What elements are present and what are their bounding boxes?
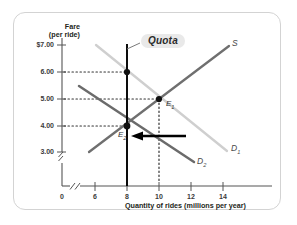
x-axis-title: Quantity of rides (millions per year): [125, 202, 246, 210]
point-label-E2-sub: 2: [123, 135, 126, 141]
curve-label-D1-sub: 1: [237, 149, 240, 155]
y-axis-break-icon: [59, 152, 64, 161]
y-tick-label-6: 6.00: [22, 68, 54, 76]
curve-D2: [79, 86, 194, 162]
y-tick-label-5: 5.00: [22, 95, 54, 103]
curve-label-S: S: [232, 39, 238, 49]
x-tick-label-0: 0: [55, 193, 69, 201]
plot-area: Fare (per ride) $7.00 6.00 5.00 4.00 3.0…: [0, 0, 297, 225]
y-axis-title: Fare (per ride): [34, 23, 80, 39]
y-axis-title-line2: (per ride): [34, 31, 80, 39]
x-tick-label-12: 12: [184, 193, 198, 201]
point-label-E2: E2: [118, 131, 126, 141]
point-E2: [124, 123, 131, 130]
point-E1: [156, 96, 162, 102]
x-tick-label-8: 8: [120, 193, 134, 201]
x-axis-break-icon: [70, 183, 80, 190]
y-tick-label-7: $7.00: [22, 41, 54, 49]
x-tick-label-14: 14: [216, 193, 230, 201]
quota-label: Quota: [141, 34, 185, 48]
point-quota-demand: [124, 69, 130, 75]
curve-label-D1: D1: [231, 144, 240, 155]
y-tick-label-4: 4.00: [22, 122, 54, 130]
x-tick-label-10: 10: [152, 193, 166, 201]
quota-leader-line: [127, 43, 140, 49]
shift-arrow-head: [131, 131, 143, 140]
point-label-E1-sub: 1: [171, 104, 174, 110]
x-tick-label-6: 6: [88, 193, 102, 201]
y-tick-label-3: 3.00: [22, 148, 54, 156]
chart-screenshot: Fare (per ride) $7.00 6.00 5.00 4.00 3.0…: [0, 0, 297, 225]
curve-label-D2: D2: [197, 157, 206, 168]
point-label-E1: E1: [166, 100, 174, 110]
curve-label-D2-sub: 2: [203, 162, 206, 168]
